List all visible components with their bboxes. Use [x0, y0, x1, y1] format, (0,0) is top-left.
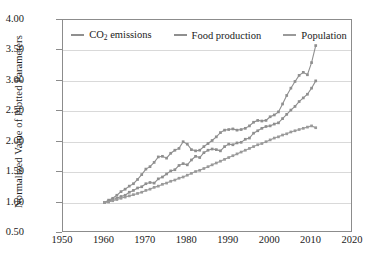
data-point-marker — [219, 131, 222, 134]
data-point-marker — [203, 167, 206, 170]
data-point-marker — [161, 176, 164, 179]
data-point-marker — [136, 178, 139, 181]
data-point-marker — [145, 182, 148, 185]
data-point-marker — [145, 168, 148, 171]
data-point-marker — [165, 173, 168, 176]
data-point-marker — [215, 136, 218, 139]
data-point-marker — [153, 186, 156, 189]
data-series-layer — [63, 20, 353, 233]
data-point-marker — [290, 87, 293, 90]
data-point-marker — [153, 161, 156, 164]
y-tick-label: 1.00 — [0, 197, 24, 207]
data-point-marker — [277, 111, 280, 114]
data-point-marker — [265, 140, 268, 143]
data-point-marker — [302, 71, 305, 74]
data-point-marker — [285, 94, 288, 97]
data-point-marker — [178, 177, 181, 180]
data-point-marker — [140, 173, 143, 176]
data-point-marker — [169, 180, 172, 183]
data-point-marker — [223, 129, 226, 132]
x-tick-label: 2020 — [322, 234, 377, 245]
series-1 — [103, 44, 317, 204]
data-point-marker — [124, 188, 127, 191]
data-point-marker — [198, 156, 201, 159]
data-point-marker — [207, 142, 210, 145]
data-point-marker — [248, 125, 251, 128]
data-point-marker — [310, 125, 313, 128]
data-point-marker — [111, 199, 114, 202]
data-point-marker — [198, 169, 201, 172]
data-point-marker — [236, 129, 239, 132]
data-point-marker — [145, 189, 148, 192]
data-point-marker — [261, 127, 264, 130]
chart-figure: Normalized Value of Plotted Parameters 0… — [0, 0, 377, 268]
data-point-marker — [298, 100, 301, 103]
data-point-marker — [219, 160, 222, 163]
data-point-marker — [256, 119, 259, 122]
data-point-marker — [240, 141, 243, 144]
data-point-marker — [207, 149, 210, 152]
data-point-marker — [165, 182, 168, 185]
data-point-marker — [314, 44, 317, 47]
data-point-marker — [290, 131, 293, 134]
data-point-marker — [182, 140, 185, 143]
data-point-marker — [248, 137, 251, 140]
data-point-marker — [140, 185, 143, 188]
data-point-marker — [281, 103, 284, 106]
data-point-marker — [165, 157, 168, 160]
y-tick-label: 2.50 — [0, 105, 24, 115]
data-point-marker — [178, 164, 181, 167]
data-point-marker — [232, 143, 235, 146]
data-point-marker — [198, 149, 201, 152]
data-point-marker — [211, 148, 214, 151]
data-point-marker — [306, 73, 309, 76]
data-point-marker — [244, 138, 247, 141]
data-point-marker — [261, 142, 264, 145]
data-point-marker — [182, 162, 185, 165]
data-point-marker — [149, 181, 152, 184]
data-point-marker — [244, 149, 247, 152]
data-point-marker — [314, 126, 317, 129]
data-point-marker — [132, 193, 135, 196]
data-point-marker — [186, 143, 189, 146]
data-point-marker — [227, 156, 230, 159]
data-point-marker — [281, 117, 284, 120]
data-point-marker — [190, 172, 193, 175]
y-tick-label: 0.50 — [0, 227, 24, 237]
data-point-marker — [161, 183, 164, 186]
data-point-marker — [132, 182, 135, 185]
data-point-marker — [194, 149, 197, 152]
data-point-marker — [128, 185, 131, 188]
data-point-marker — [124, 196, 127, 199]
series-line — [104, 46, 315, 203]
data-point-marker — [149, 188, 152, 191]
data-point-marker — [265, 119, 268, 122]
data-point-marker — [252, 121, 255, 124]
data-point-marker — [203, 151, 206, 154]
data-point-marker — [215, 148, 218, 151]
data-point-marker — [294, 105, 297, 108]
data-point-marker — [256, 129, 259, 132]
data-point-marker — [116, 198, 119, 201]
data-point-marker — [186, 163, 189, 166]
data-point-marker — [107, 201, 110, 204]
data-point-marker — [136, 187, 139, 190]
data-point-marker — [248, 147, 251, 150]
data-point-marker — [128, 191, 131, 194]
data-point-marker — [227, 128, 230, 131]
data-point-marker — [194, 170, 197, 173]
data-point-marker — [169, 152, 172, 155]
data-point-marker — [240, 151, 243, 154]
data-point-marker — [132, 189, 135, 192]
data-point-marker — [232, 154, 235, 157]
data-point-marker — [306, 93, 309, 96]
data-point-marker — [269, 139, 272, 142]
data-point-marker — [169, 170, 172, 173]
data-point-marker — [219, 149, 222, 152]
data-point-marker — [194, 155, 197, 158]
data-point-marker — [232, 128, 235, 131]
data-point-marker — [128, 195, 131, 198]
y-tick-label: 1.50 — [0, 166, 24, 176]
data-point-marker — [120, 197, 123, 200]
data-point-marker — [252, 145, 255, 148]
